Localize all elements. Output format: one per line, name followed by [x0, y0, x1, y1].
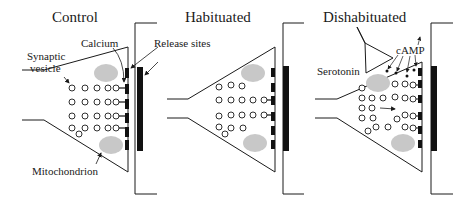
label-camp: cAMP: [396, 45, 425, 56]
mitochondrion-icon: [366, 74, 390, 92]
synaptic-vesicles: [69, 85, 119, 137]
postsynaptic-receptor-bar: [137, 67, 143, 151]
synaptic-vesicles: [216, 82, 267, 137]
mitochondrion-icon: [99, 136, 123, 154]
mitochondrion-icon: [243, 134, 267, 152]
synaptic-vesicles: [359, 81, 416, 134]
vesicle-mobilization-arrow: [380, 108, 395, 109]
panel-title-control: Control: [52, 10, 98, 25]
label-synaptic-vesicle-2: vesicle: [30, 63, 61, 74]
mitochondrion-icon: [241, 64, 265, 82]
habituation-diagram: Control Habituated Dishabituated Calcium…: [0, 0, 475, 203]
release-sites: [271, 68, 275, 149]
label-serotonin: Serotonin: [317, 66, 360, 77]
serotonin-terminal: [357, 27, 393, 73]
mitochondrion-icon: [391, 134, 415, 152]
label-calcium: Calcium: [81, 38, 118, 49]
panel-dishabituated: [315, 23, 453, 194]
postsynaptic-receptor-bar: [431, 66, 437, 151]
label-release-sites: Release sites: [154, 38, 211, 49]
panel-title-habituated: Habituated: [185, 10, 251, 25]
mitochondrion-icon: [94, 64, 118, 82]
release-sites: [418, 68, 422, 148]
panel-title-dishabituated: Dishabituated: [323, 10, 406, 25]
postsynaptic-receptor-bar: [283, 66, 289, 151]
label-mitochondrion: Mitochondrion: [32, 166, 98, 177]
label-synaptic-vesicle-1: Synaptic: [27, 51, 66, 62]
